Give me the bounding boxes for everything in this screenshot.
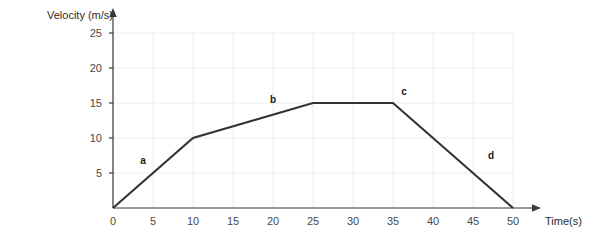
x-tick-label-5: 5 (150, 215, 156, 227)
velocity-time-chart: Velocity (m/s) Time(s) 25 20 15 10 5 0 5… (0, 0, 596, 240)
x-tick-label-35: 35 (387, 215, 399, 227)
x-tick-label-20: 20 (267, 215, 279, 227)
x-tick-label-50: 50 (507, 215, 519, 227)
y-tick-label-15: 15 (90, 97, 102, 109)
y-axis-title: Velocity (m/s) (47, 9, 113, 21)
segment-label-a: a (140, 155, 146, 166)
x-tick-label-45: 45 (467, 215, 479, 227)
x-tick-label-30: 30 (347, 215, 359, 227)
y-tick-label-20: 20 (90, 62, 102, 74)
y-tick-label-5: 5 (96, 167, 102, 179)
x-tick-label-10: 10 (187, 215, 199, 227)
y-tick-label-10: 10 (90, 132, 102, 144)
vertical-gridlines (113, 33, 513, 208)
y-axis (109, 8, 117, 208)
x-tick-label-40: 40 (427, 215, 439, 227)
segment-label-d: d (488, 150, 494, 161)
chart-canvas: Velocity (m/s) Time(s) 25 20 15 10 5 0 5… (0, 0, 596, 240)
segment-label-c: c (401, 86, 407, 97)
x-axis (113, 204, 541, 212)
x-tick-label-15: 15 (227, 215, 239, 227)
x-axis-title: Time(s) (545, 215, 582, 227)
segment-label-b: b (270, 94, 276, 105)
x-tick-label-25: 25 (307, 215, 319, 227)
y-tick-label-25: 25 (90, 27, 102, 39)
x-tick-label-0: 0 (110, 215, 116, 227)
